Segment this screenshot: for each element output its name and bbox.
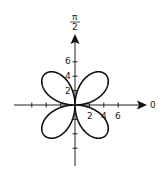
pi-over-2-denominator: 2 <box>72 22 78 32</box>
pi-over-2-numerator: π <box>72 12 78 22</box>
x-tick-label-6: 6 <box>115 111 121 121</box>
y-tick-label-2: 2 <box>65 86 71 96</box>
polar-graph: 2 4 6 2 4 6 0 π 2 <box>0 0 163 178</box>
x-tick-label-2: 2 <box>87 111 93 121</box>
polar-axis-label: 0 <box>150 100 156 110</box>
y-tick-label-6: 6 <box>65 56 71 66</box>
